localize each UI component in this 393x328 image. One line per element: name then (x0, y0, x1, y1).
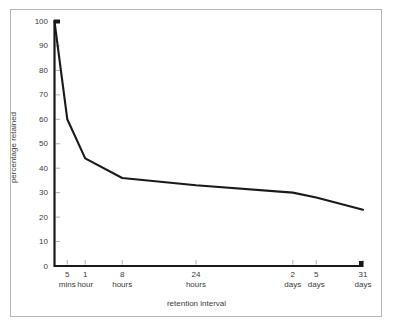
x-tick-label-unit: hour (65, 280, 105, 290)
x-tick-label-value: 8 (102, 270, 142, 280)
y-tick-label: 100 (26, 17, 48, 26)
figure-container: 0102030405060708090100 5mins1hour8hours2… (0, 0, 393, 328)
y-tick-label: 60 (26, 115, 48, 124)
y-tick-label: 70 (26, 90, 48, 99)
y-tick-label: 40 (26, 164, 48, 173)
x-tick-label: 8hours (102, 270, 142, 289)
x-tick-label-value: 1 (65, 270, 105, 280)
x-axis-title: retention interval (0, 299, 393, 308)
x-tick-label: 1hour (65, 270, 105, 289)
y-tick-label: 90 (26, 41, 48, 50)
y-tick-label: 50 (26, 139, 48, 148)
x-tick-label-value: 24 (176, 270, 216, 280)
x-tick-label-unit: days (343, 280, 383, 290)
forgetting-curve-line (55, 22, 364, 210)
x-tick-label-value: 5 (296, 270, 336, 280)
y-tick-label: 0 (26, 262, 48, 271)
y-tick-label: 20 (26, 213, 48, 222)
x-tick-label: 31days (343, 270, 383, 289)
x-tick-label: 5days (296, 270, 336, 289)
x-tick-label-unit: hours (102, 280, 142, 290)
x-tick-label-unit: hours (176, 280, 216, 290)
y-tick-label: 80 (26, 66, 48, 75)
x-tick-label-value: 31 (343, 270, 383, 280)
x-tick-label: 24hours (176, 270, 216, 289)
x-axis-tickmarks (67, 260, 363, 265)
y-axis-title: percentage retained (9, 98, 18, 198)
x-tick-label-unit: days (296, 280, 336, 290)
y-tick-label: 10 (26, 237, 48, 246)
y-tick-label: 30 (26, 188, 48, 197)
x-axis-end-cap (359, 261, 364, 267)
